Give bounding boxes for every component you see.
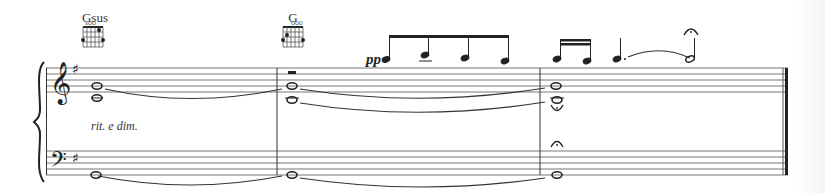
whole-rest-icon — [288, 71, 296, 74]
eighth-note-group — [381, 35, 509, 65]
sixteenth-note-group — [552, 39, 591, 65]
tie — [300, 178, 545, 187]
key-signature-sharp-icon: ♯ — [72, 61, 79, 77]
treble-clef-icon: 𝄞 — [50, 62, 71, 105]
system-brace-icon — [34, 62, 44, 182]
treble-staff — [46, 68, 788, 92]
tie — [300, 88, 545, 98]
page-edge-shadow — [795, 0, 825, 193]
bass-clef-icon: 𝄢 — [50, 147, 67, 177]
dynamic-marking: pp — [366, 51, 381, 68]
tie — [300, 102, 545, 112]
chord-name-g: G — [273, 10, 313, 26]
tie — [628, 51, 690, 58]
fermata-icon — [551, 142, 563, 148]
sheet-music-score: 𝄞 ♯ 𝄢 ♯ xOO OOO — [0, 0, 825, 193]
expression-marking: rit. e dim. — [91, 119, 138, 134]
chord-name-gsus: Gsus — [75, 10, 115, 26]
half-note-fermata — [684, 29, 698, 63]
tie — [105, 89, 282, 99]
bass-staff — [46, 151, 788, 175]
dotted-quarter-note — [612, 38, 626, 63]
key-signature-sharp-icon: ♯ — [72, 150, 79, 166]
tie — [98, 176, 282, 185]
fermata-icon — [551, 105, 563, 111]
